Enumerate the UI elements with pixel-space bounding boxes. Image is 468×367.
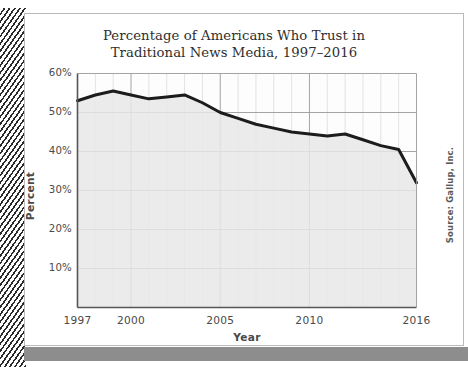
y-tick-label: 20% xyxy=(36,223,72,234)
source-attribution: Source: Gallup, Inc. xyxy=(445,135,455,255)
y-tick-label: 60% xyxy=(36,67,72,78)
y-tick-label: 50% xyxy=(36,106,72,117)
chart-page: Percentage of Americans Who Trust in Tra… xyxy=(0,0,468,367)
y-axis-tick-labels: 10%20%30%40%50%60% xyxy=(36,0,72,367)
x-tick-label: 2005 xyxy=(206,314,234,326)
x-tick-label: 1997 xyxy=(63,314,91,326)
x-axis-title: Year xyxy=(77,331,417,343)
x-axis-tick-labels: 19972000200520102016 xyxy=(0,314,468,332)
y-tick-label: 10% xyxy=(36,262,72,273)
y-tick-label: 40% xyxy=(36,145,72,156)
y-tick-label: 30% xyxy=(36,184,72,195)
x-tick-label: 2000 xyxy=(117,314,145,326)
x-tick-label: 2016 xyxy=(402,314,430,326)
y-axis-title: Percent xyxy=(24,156,36,236)
x-tick-label: 2010 xyxy=(295,314,323,326)
